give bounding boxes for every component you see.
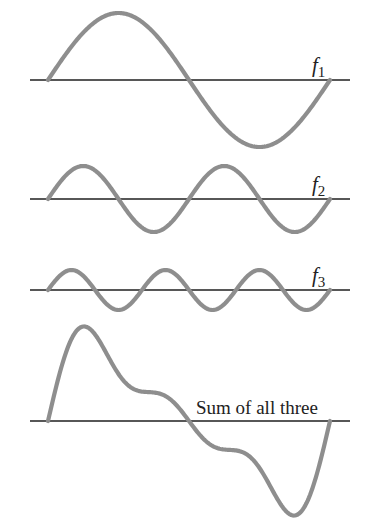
f3-label: f3 — [312, 263, 325, 290]
harmonics-diagram: f1 f2 f3 Sum of all three — [0, 0, 386, 521]
panel-sum: Sum of all three — [30, 326, 350, 515]
sum-label: Sum of all three — [196, 397, 318, 418]
f2-label: f2 — [312, 172, 325, 199]
f3-label-subscript: 3 — [318, 274, 326, 290]
f1-label: f1 — [312, 53, 325, 80]
f1-label-subscript: 1 — [318, 64, 326, 80]
panel-f1: f1 — [30, 13, 350, 147]
panel-f3: f3 — [30, 263, 350, 310]
f2-label-subscript: 2 — [318, 183, 326, 199]
panel-f2: f2 — [30, 166, 350, 232]
